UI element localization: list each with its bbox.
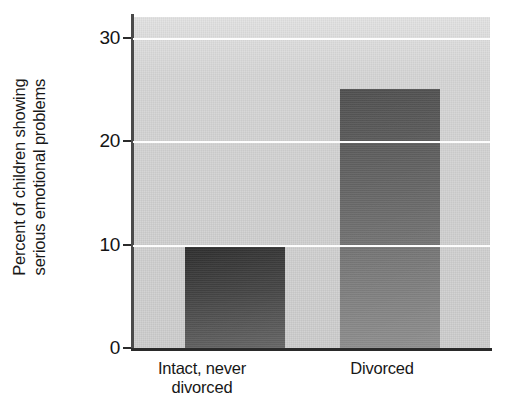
- y-axis-tick-label-10: 10: [76, 235, 120, 254]
- y-axis-title: Percent of children showing serious emot…: [0, 0, 58, 355]
- x-axis-line: [131, 348, 492, 351]
- gridline-20: [133, 141, 490, 143]
- y-axis-tick-label-30: 30: [76, 28, 120, 47]
- y-axis-title-text: Percent of children showing serious emot…: [9, 79, 49, 276]
- bar-intact-never-divorced: [185, 245, 285, 348]
- x-axis-category-label-0-line-1: Intact, never: [120, 359, 284, 378]
- gridline-30: [133, 38, 490, 40]
- y-axis-line: [131, 14, 134, 351]
- y-axis-title-line-2: serious emotional problems: [29, 79, 49, 276]
- x-axis-category-label-1: Divorced: [300, 359, 464, 378]
- y-axis-tick-label-20: 20: [76, 131, 120, 150]
- bar-divorced: [340, 89, 440, 348]
- bar-chart-figure: Percent of children showing serious emot…: [0, 0, 518, 418]
- x-axis-category-label-1-line-1: Divorced: [300, 359, 464, 378]
- plot-area: [133, 17, 490, 348]
- y-axis-title-line-1: Percent of children showing: [9, 79, 29, 276]
- y-axis-tick-label-0: 0: [76, 338, 120, 357]
- x-axis-category-label-0-line-2: divorced: [120, 378, 284, 397]
- gridline-10: [133, 245, 490, 247]
- x-axis-category-label-0: Intact, never divorced: [120, 359, 284, 398]
